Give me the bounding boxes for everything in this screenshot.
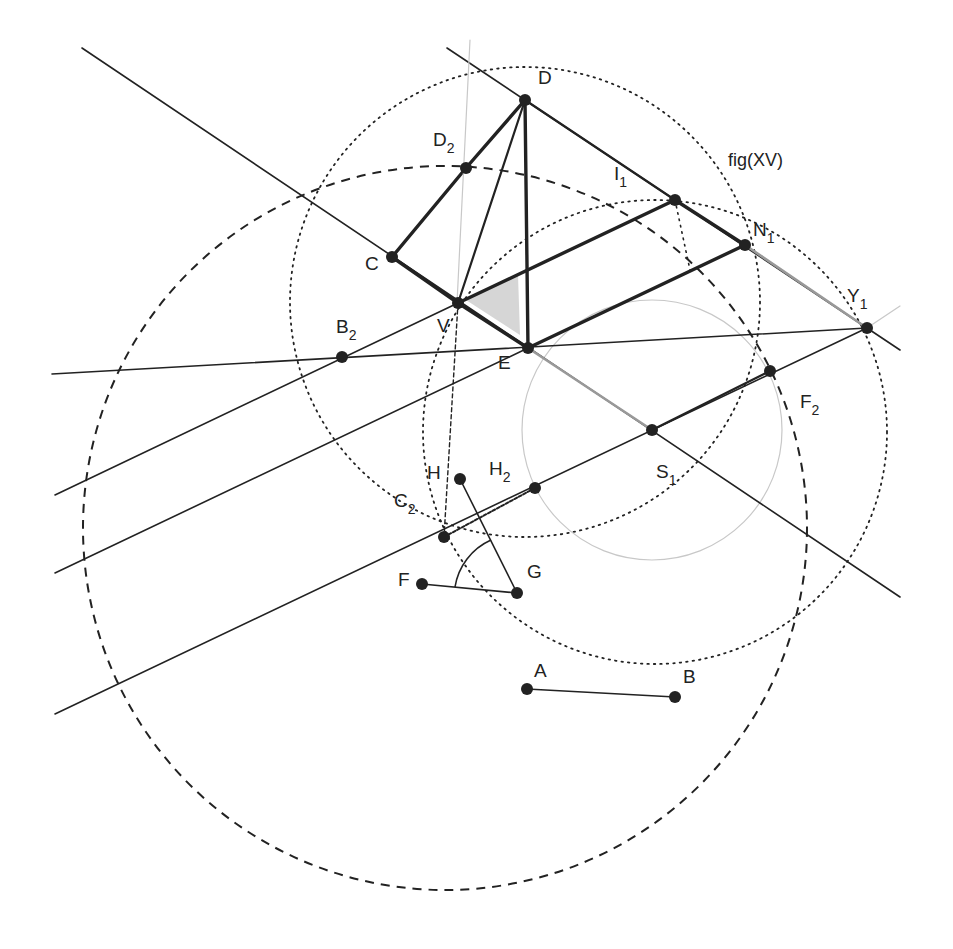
- point-marker[interactable]: [669, 194, 681, 206]
- geometry-figure: DD2CVEI1N1Y1B2F2S1HH2C2FGAB fig(XV): [0, 0, 953, 949]
- point-C2[interactable]: C2: [394, 490, 450, 543]
- segment-C2-H2: [444, 488, 535, 537]
- point-label: C: [365, 253, 379, 274]
- point-label: H2: [489, 458, 511, 485]
- arcs-layer: [455, 540, 491, 587]
- point-D[interactable]: D: [519, 67, 552, 106]
- point-marker[interactable]: [438, 531, 450, 543]
- segment-S1-F2: [652, 371, 770, 430]
- point-label: H: [427, 462, 441, 483]
- point-label: A: [534, 660, 547, 681]
- point-marker[interactable]: [529, 482, 541, 494]
- point-V[interactable]: V: [437, 297, 464, 336]
- line-upper-parallel: [55, 303, 458, 495]
- point-E[interactable]: E: [498, 342, 534, 373]
- point-F[interactable]: F: [398, 569, 428, 590]
- point-label: V: [437, 315, 450, 336]
- point-marker[interactable]: [521, 683, 533, 695]
- edge-E-S1: [528, 348, 652, 430]
- line-B2-Y1: [52, 328, 867, 374]
- point-marker[interactable]: [861, 322, 873, 334]
- point-Y1[interactable]: Y1: [847, 285, 873, 334]
- edge-D-I1: [525, 100, 675, 200]
- point-label: E: [498, 352, 511, 373]
- point-marker[interactable]: [460, 162, 472, 174]
- point-label: D2: [433, 129, 455, 156]
- point-S1[interactable]: S1: [646, 424, 677, 488]
- vertical-V-C2: [444, 303, 458, 537]
- point-D2[interactable]: D2: [433, 129, 472, 174]
- point-label: F2: [800, 391, 820, 418]
- point-marker[interactable]: [452, 297, 464, 309]
- edge-D-E: [525, 100, 528, 348]
- point-label: S1: [656, 461, 677, 488]
- point-marker[interactable]: [669, 691, 681, 703]
- point-label: G: [527, 561, 542, 582]
- segment-A-B: [527, 689, 675, 697]
- point-marker[interactable]: [739, 239, 751, 251]
- point-G[interactable]: G: [511, 561, 542, 599]
- point-B2[interactable]: B2: [336, 316, 357, 363]
- edge-D-D2: [466, 100, 525, 168]
- point-marker[interactable]: [416, 578, 428, 590]
- point-marker[interactable]: [522, 342, 534, 354]
- points-layer: DD2CVEI1N1Y1B2F2S1HH2C2FGAB: [336, 67, 873, 703]
- point-label: N1: [753, 219, 775, 246]
- point-label: F: [398, 569, 410, 590]
- figure-title: fig(XV): [728, 150, 783, 170]
- edge-V-I1: [458, 200, 675, 303]
- point-B[interactable]: B: [669, 666, 696, 703]
- point-marker[interactable]: [764, 365, 776, 377]
- point-H2[interactable]: H2: [489, 458, 541, 494]
- edge-I1-N1: [675, 200, 745, 245]
- segments-layer: [52, 40, 900, 714]
- edge-D2-C: [392, 168, 466, 257]
- edge-D-V: [458, 100, 525, 303]
- edge-C-V: [392, 257, 458, 303]
- point-C[interactable]: C: [365, 251, 398, 274]
- point-label: B: [683, 666, 696, 687]
- point-marker[interactable]: [454, 473, 466, 485]
- point-marker[interactable]: [511, 587, 523, 599]
- edge-E-N1: [528, 245, 745, 348]
- point-H[interactable]: H: [427, 462, 466, 485]
- circles-layer: [83, 67, 887, 890]
- point-label: D: [538, 67, 552, 88]
- point-F2[interactable]: F2: [764, 365, 820, 418]
- point-N1[interactable]: N1: [739, 219, 775, 251]
- point-marker[interactable]: [336, 351, 348, 363]
- angle-arc-at-G: [455, 540, 491, 587]
- segment-F-G: [422, 584, 517, 593]
- point-marker[interactable]: [646, 424, 658, 436]
- point-marker[interactable]: [386, 251, 398, 263]
- point-label: B2: [336, 316, 357, 343]
- point-marker[interactable]: [519, 94, 531, 106]
- point-label: C2: [394, 490, 416, 517]
